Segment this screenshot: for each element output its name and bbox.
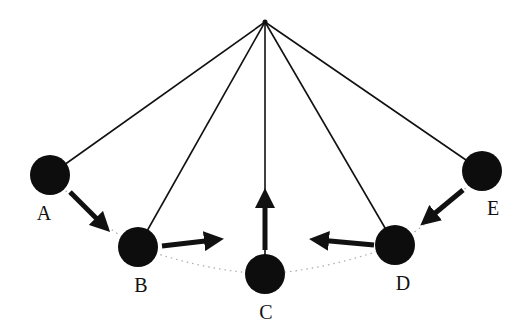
velocity-arrow-icon [319,240,374,245]
label-e: E [487,197,499,220]
label-b: B [134,274,147,297]
bob-e [462,151,502,191]
velocity-arrow-icon [70,192,103,225]
bob-a [30,155,70,195]
bob-c [245,254,285,294]
string-e [265,22,482,171]
string-d [265,22,395,245]
velocity-arrow-icon [162,240,214,246]
pendulum-diagram: ABCDE [0,0,527,336]
velocity-arrow-icon [428,190,463,219]
label-c: C [259,301,272,324]
string-b [138,22,265,247]
bob-b [118,227,158,267]
label-a: A [37,202,51,225]
bob-d [375,225,415,265]
label-d: D [396,272,410,295]
pendulum-svg [0,0,527,336]
pivot-point [263,20,268,25]
string-a [50,22,265,175]
